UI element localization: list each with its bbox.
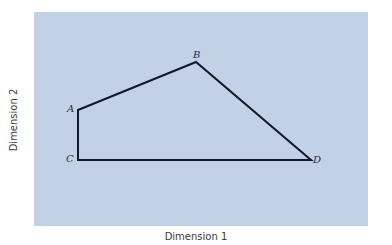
y-axis-label: Dimension 2 [8, 89, 19, 152]
point-label-d: D [313, 154, 321, 165]
x-axis-label: Dimension 1 [0, 231, 392, 242]
quadrilateral-shape [0, 0, 392, 245]
point-label-b: B [193, 49, 200, 60]
point-label-a: A [67, 103, 74, 114]
point-label-c: C [66, 153, 74, 164]
